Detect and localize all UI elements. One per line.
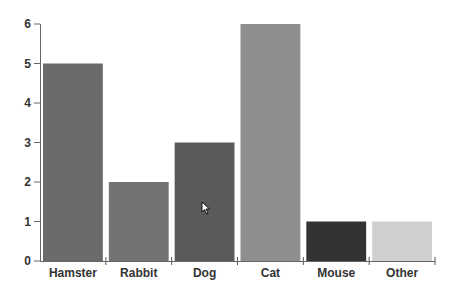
y-tick-label: 6 [24,17,31,31]
y-tick-label: 0 [24,254,31,268]
x-tick-label: Rabbit [120,266,157,280]
y-tick-label: 2 [24,175,31,189]
y-tick-label: 3 [24,136,31,150]
bars-group [43,24,432,261]
mouse-cursor-icon [201,201,211,215]
y-axis: 0123456 [24,17,40,268]
x-tick-label: Cat [261,266,280,280]
x-tick-label: Dog [193,266,216,280]
x-tick-label: Other [386,266,418,280]
bar-hamster[interactable] [43,64,103,262]
x-tick-label: Mouse [317,266,355,280]
bar-chart: 0123456 HamsterRabbitDogCatMouseOther [0,0,458,297]
bar-rabbit[interactable] [109,182,169,261]
y-tick-label: 5 [24,57,31,71]
y-tick-label: 1 [24,215,31,229]
bar-mouse[interactable] [306,222,366,262]
x-tick-label: Hamster [49,266,97,280]
y-tick-label: 4 [24,96,31,110]
bar-cat[interactable] [241,24,301,261]
bar-other[interactable] [372,222,432,262]
